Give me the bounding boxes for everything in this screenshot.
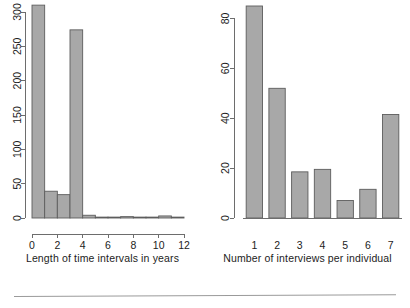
x-axis-category-label: 2 <box>274 239 280 250</box>
histogram-left-svg: 050100150200250300024681012 <box>0 0 205 250</box>
bar <box>246 6 262 218</box>
figure-panel-pair: 050100150200250300024681012 Length of ti… <box>0 0 410 308</box>
y-axis-tick-label: 0 <box>219 215 231 221</box>
histogram-bar <box>159 216 172 218</box>
histogram-bar <box>108 217 121 218</box>
y-axis-tick-label: 0 <box>11 215 23 221</box>
plot-area-left: 050100150200250300024681012 <box>0 0 205 250</box>
x-axis-category-label: 3 <box>297 239 303 250</box>
y-axis-tick-label: 200 <box>11 72 23 90</box>
y-axis-tick-label: 50 <box>11 178 23 190</box>
x-axis-category-label: 4 <box>320 239 326 250</box>
x-axis-title-left: Length of time intervals in years <box>0 252 205 264</box>
bar <box>337 201 353 218</box>
x-axis-category-label: 5 <box>342 239 348 250</box>
x-axis-tick-label: 8 <box>130 239 136 250</box>
bar <box>382 114 398 218</box>
y-axis-tick-label: 60 <box>219 62 231 74</box>
x-axis-tick-label: 0 <box>29 239 35 250</box>
histogram-bar <box>121 217 134 218</box>
bar <box>360 189 376 218</box>
plot-area-right: 1234567020406080 <box>205 0 410 250</box>
histogram-bar <box>45 191 58 218</box>
x-axis-tick-label: 6 <box>105 239 111 250</box>
x-axis-tick-label: 4 <box>80 239 86 250</box>
histogram-bar <box>57 195 70 218</box>
x-axis-title-right: Number of interviews per individual <box>205 252 410 264</box>
y-axis-tick-label: 100 <box>11 140 23 158</box>
y-axis-tick-label: 40 <box>219 112 231 124</box>
bar <box>314 169 330 218</box>
histogram-bar <box>32 5 45 218</box>
x-axis-category-label: 1 <box>251 239 257 250</box>
histogram-bar <box>171 217 184 218</box>
barplot-panel-right: 1234567020406080 Number of interviews pe… <box>205 0 410 290</box>
y-axis-tick-label: 80 <box>219 12 231 24</box>
histogram-bar <box>70 30 83 218</box>
histogram-bar <box>83 215 96 218</box>
histogram-bar <box>133 217 146 218</box>
histogram-panel-left: 050100150200250300024681012 Length of ti… <box>0 0 205 290</box>
bar <box>292 172 308 218</box>
x-axis-category-label: 6 <box>365 239 371 250</box>
x-axis-tick-label: 12 <box>178 239 190 250</box>
bar <box>269 88 285 218</box>
x-axis-tick-label: 10 <box>153 239 165 250</box>
y-axis-tick-label: 20 <box>219 162 231 174</box>
x-axis-category-label: 7 <box>388 239 394 250</box>
y-axis-tick-label: 300 <box>11 3 23 21</box>
footer-divider-rule <box>14 294 396 297</box>
barplot-right-svg: 1234567020406080 <box>205 0 410 250</box>
y-axis-tick-label: 150 <box>11 106 23 124</box>
histogram-bar <box>95 217 108 218</box>
histogram-bar <box>146 217 159 218</box>
y-axis-tick-label: 250 <box>11 37 23 55</box>
x-axis-tick-label: 2 <box>54 239 60 250</box>
